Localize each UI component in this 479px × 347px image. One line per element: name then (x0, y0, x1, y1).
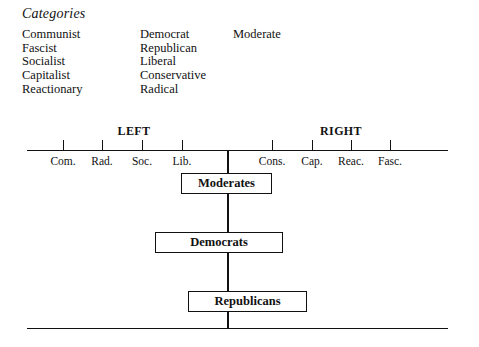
category-item: Democrat (140, 28, 206, 42)
pole-label-right: RIGHT (320, 124, 362, 139)
categories-heading: Categories (22, 6, 85, 22)
figure-baseline-rule (27, 328, 448, 329)
axis-tick (272, 140, 273, 150)
axis-tick-label: Reac. (338, 155, 364, 167)
categories-column-2: DemocratRepublicanLiberalConservativeRad… (140, 28, 206, 97)
category-item: Communist (22, 28, 82, 42)
category-item: Moderate (233, 28, 281, 42)
axis-tick-label: Lib. (173, 155, 192, 167)
axis-tick (63, 140, 64, 150)
axis-tick (102, 140, 103, 150)
group-box-democrats: Democrats (155, 232, 283, 253)
axis-tick-label: Soc. (132, 155, 152, 167)
category-item: Republican (140, 42, 206, 56)
axis-tick (182, 140, 183, 150)
categories-column-3: Moderate (233, 28, 281, 42)
category-item: Reactionary (22, 83, 82, 97)
axis-tick-label: Cons. (259, 155, 286, 167)
categories-column-1: CommunistFascistSocialistCapitalistReact… (22, 28, 82, 97)
category-item: Conservative (140, 69, 206, 83)
group-box-moderates: Moderates (181, 173, 272, 194)
category-item: Socialist (22, 55, 82, 69)
axis-tick-label: Rad. (91, 155, 112, 167)
category-item: Fascist (22, 42, 82, 56)
axis-tick-label: Cap. (301, 155, 322, 167)
category-item: Capitalist (22, 69, 82, 83)
axis-tick (351, 140, 352, 150)
axis-tick (390, 140, 391, 150)
group-box-republicans: Republicans (188, 291, 307, 312)
axis-tick (142, 140, 143, 150)
pole-label-left: LEFT (118, 124, 151, 139)
axis-tick-label: Fasc. (378, 155, 402, 167)
axis-tick (312, 140, 313, 150)
category-item: Radical (140, 83, 206, 97)
category-item: Liberal (140, 55, 206, 69)
axis-tick-label: Com. (50, 155, 75, 167)
spectrum-axis-line (27, 150, 448, 151)
political-spectrum-figure: Categories CommunistFascistSocialistCapi… (0, 0, 479, 347)
